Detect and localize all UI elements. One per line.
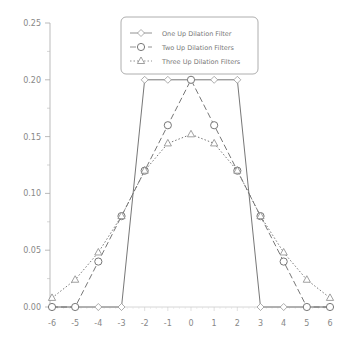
circle-marker xyxy=(137,43,144,50)
diamond-marker xyxy=(141,76,148,83)
x-tick-label: 0 xyxy=(188,319,193,328)
y-tick-label: 0.10 xyxy=(23,189,41,198)
y-tick-label: 0.20 xyxy=(23,76,41,85)
x-tick-label: -6 xyxy=(48,319,56,328)
triangle-marker xyxy=(187,130,194,137)
circle-marker xyxy=(280,258,287,265)
series-line xyxy=(52,134,330,298)
triangle-marker xyxy=(48,294,55,301)
x-tick-label: 1 xyxy=(212,319,217,328)
x-tick-label: 5 xyxy=(304,319,309,328)
x-tick-label: -2 xyxy=(141,319,149,328)
triangle-marker xyxy=(72,276,79,283)
diamond-marker xyxy=(164,76,171,83)
series-lines xyxy=(48,76,333,310)
diamond-marker xyxy=(95,304,102,311)
circle-marker xyxy=(303,303,310,310)
legend-label: Three Up Dilation Filters xyxy=(161,58,241,66)
x-tick-label: 4 xyxy=(281,319,286,328)
x-tick-label: 6 xyxy=(327,319,332,328)
series-circle xyxy=(48,76,333,310)
series-line xyxy=(52,80,330,307)
circle-marker xyxy=(164,122,171,129)
y-tick-label: 0.00 xyxy=(23,303,41,312)
circle-marker xyxy=(48,303,55,310)
x-tick-label: -4 xyxy=(94,319,102,328)
circle-marker xyxy=(211,122,218,129)
x-tick-label: -1 xyxy=(164,319,172,328)
triangle-marker xyxy=(95,248,102,255)
circle-marker xyxy=(72,303,79,310)
circle-marker xyxy=(187,76,194,83)
x-tick-label: 2 xyxy=(235,319,240,328)
circle-marker xyxy=(95,258,102,265)
diamond-marker xyxy=(211,76,218,83)
y-tick-label: 0.15 xyxy=(23,133,41,142)
circle-marker xyxy=(326,303,333,310)
legend: One Up Dilation FilterTwo Up Dilation Fi… xyxy=(121,17,258,74)
x-tick-label: -5 xyxy=(71,319,79,328)
diamond-marker xyxy=(118,304,125,311)
triangle-marker xyxy=(326,294,333,301)
legend-label: Two Up Dilation Filters xyxy=(161,44,234,52)
diamond-marker xyxy=(280,304,287,311)
x-tick-label: 3 xyxy=(258,319,263,328)
diamond-marker xyxy=(257,304,264,311)
legend-label: One Up Dilation Filter xyxy=(162,30,232,38)
y-tick-label: 0.25 xyxy=(23,19,41,28)
y-tick-label: 0.05 xyxy=(23,246,41,255)
x-tick-label: -3 xyxy=(118,319,126,328)
triangle-marker xyxy=(280,248,287,255)
series-line xyxy=(52,80,330,307)
line-chart: 0.000.050.100.150.200.25-6-5-4-3-2-10123… xyxy=(0,0,352,346)
triangle-marker xyxy=(164,139,171,146)
diamond-marker xyxy=(234,76,241,83)
